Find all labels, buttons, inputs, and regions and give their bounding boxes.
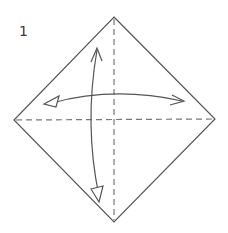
vertical-arrow-curve bbox=[91, 50, 99, 196]
arrowhead-hollow-left-icon bbox=[44, 96, 59, 107]
diagram-canvas bbox=[0, 0, 228, 233]
horizontal-arrow-curve bbox=[52, 94, 182, 103]
origami-diagram: 1 bbox=[0, 0, 228, 233]
vertical-fold-unfold-arrow bbox=[91, 48, 103, 202]
